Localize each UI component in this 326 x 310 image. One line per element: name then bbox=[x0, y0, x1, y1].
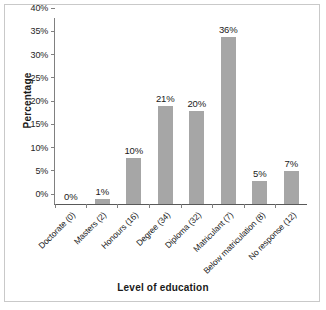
y-axis-tick: 35% bbox=[31, 26, 55, 36]
bar-value-label: 0% bbox=[64, 191, 77, 202]
y-axis-tick-label: 15% bbox=[31, 119, 51, 129]
y-axis-tick: 20% bbox=[31, 96, 55, 106]
y-axis-tick: 15% bbox=[31, 119, 55, 129]
y-axis-tick-label: 0% bbox=[35, 189, 51, 199]
bar-slot: 21% bbox=[150, 18, 182, 204]
y-axis-tick-label: 25% bbox=[31, 73, 51, 83]
y-axis-tick: 25% bbox=[31, 73, 55, 83]
y-axis-tick: 10% bbox=[31, 143, 55, 153]
bar-chart-figure: Percentage 0%5%10%15%20%25%30%35%40% 0%1… bbox=[0, 0, 326, 310]
bar-slot: 1% bbox=[87, 18, 119, 204]
bar-value-label: 10% bbox=[125, 145, 143, 156]
y-axis-tick-label: 5% bbox=[35, 166, 51, 176]
bar-slot: 5% bbox=[244, 18, 276, 204]
y-axis-tick: 30% bbox=[31, 50, 55, 60]
bar[interactable]: 7% bbox=[284, 171, 299, 204]
y-axis-tick: 0% bbox=[35, 189, 55, 199]
bar[interactable]: 20% bbox=[189, 111, 204, 204]
bar-slot: 0% bbox=[55, 18, 87, 204]
bar[interactable]: 21% bbox=[158, 106, 173, 204]
bar-value-label: 21% bbox=[156, 93, 174, 104]
y-axis-tick-label: 10% bbox=[31, 143, 51, 153]
y-axis-tick: 5% bbox=[35, 166, 55, 176]
plot-area: 0%5%10%15%20%25%30%35%40% 0%1%10%21%20%3… bbox=[54, 18, 307, 205]
y-axis-tick-label: 35% bbox=[31, 26, 51, 36]
x-axis-title: Level of education bbox=[0, 282, 326, 293]
y-axis-tick-label: 30% bbox=[31, 50, 51, 60]
y-axis-tick-mark bbox=[51, 8, 55, 9]
bar-value-label: 36% bbox=[219, 24, 237, 35]
bar-value-label: 5% bbox=[253, 168, 266, 179]
y-axis-tick-label: 40% bbox=[31, 3, 51, 13]
bar-value-label: 7% bbox=[285, 158, 298, 169]
bar[interactable]: 5% bbox=[252, 181, 267, 204]
bar-value-label: 1% bbox=[96, 186, 109, 197]
bar-slot: 20% bbox=[181, 18, 213, 204]
x-axis-category-slot: No response (12) bbox=[275, 208, 307, 278]
y-axis-tick: 40% bbox=[31, 3, 55, 13]
bar-slot: 10% bbox=[118, 18, 150, 204]
x-axis-category-labels: Doctorate (0)Masters (2)Honours (16)Degr… bbox=[54, 208, 307, 278]
bar-slot: 7% bbox=[276, 18, 308, 204]
y-axis-tick-label: 20% bbox=[31, 96, 51, 106]
bar-slot: 36% bbox=[213, 18, 245, 204]
bar-value-label: 20% bbox=[188, 98, 206, 109]
bar[interactable]: 10% bbox=[126, 158, 141, 205]
bar[interactable]: 36% bbox=[221, 37, 236, 204]
bar-series: 0%1%10%21%20%36%5%7% bbox=[55, 18, 307, 204]
